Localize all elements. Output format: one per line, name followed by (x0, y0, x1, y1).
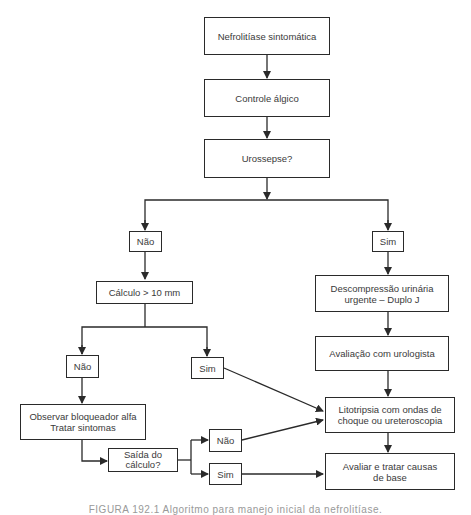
node-label-line2: de base (373, 472, 407, 483)
node-label-line1: Litotripsia com ondas de (339, 404, 442, 415)
node-urosepsis-decision: Urossepse? (204, 139, 330, 178)
node-stone-size-decision: Cálculo > 10 mm (96, 281, 193, 304)
node-label: Não (74, 361, 91, 372)
node-label: Sim (217, 469, 233, 480)
node-label: Sim (199, 363, 215, 374)
node-pain-control: Controle álgico (204, 79, 330, 117)
node-label: Nefrolitíase sintomática (218, 31, 317, 42)
node-lithotripsy: Litotripsia com ondas de choque ou urete… (325, 397, 455, 433)
node-urosepsis-yes: Sim (372, 231, 404, 252)
node-symptomatic-nephrolithiasis: Nefrolitíase sintomática (204, 17, 330, 55)
node-size-no: Não (66, 355, 99, 378)
node-label: Avaliação com urologista (329, 348, 434, 359)
node-label-line2: cálculo? (126, 460, 161, 470)
node-label-line2: choque ou ureteroscopia (338, 415, 443, 426)
node-label-line1: Avaliar e tratar causas (343, 461, 437, 472)
node-label-line1: Descompressão urinária (331, 283, 434, 294)
node-observe-alpha-blocker: Observar bloqueador alfa Tratar sintomas (20, 404, 146, 440)
node-label: Não (137, 236, 154, 247)
node-label: Cálculo > 10 mm (109, 287, 181, 298)
node-urosepsis-no: Não (129, 231, 162, 252)
node-stone-passage-decision: Saída do cálculo? (108, 448, 178, 472)
node-label: Controle álgico (235, 93, 298, 104)
node-size-yes: Sim (191, 357, 224, 379)
node-urologist-evaluation: Avaliação com urologista (315, 336, 449, 371)
node-evaluate-underlying-causes: Avaliar e tratar causas de base (325, 453, 455, 490)
node-label: Não (217, 435, 234, 446)
node-label: Urossepse? (242, 153, 293, 164)
node-urgent-decompression: Descompressão urinária urgente – Duplo J (315, 275, 449, 312)
node-label-line2: urgente – Duplo J (345, 294, 420, 305)
node-passage-no: Não (209, 429, 242, 452)
node-label-line2: Tratar sintomas (50, 422, 116, 433)
node-passage-yes: Sim (209, 463, 242, 485)
node-label: Sim (380, 236, 396, 247)
figure-caption: FIGURA 192.1 Algoritmo para manejo inici… (0, 504, 471, 515)
node-label-line1: Observar bloqueador alfa (29, 411, 136, 422)
